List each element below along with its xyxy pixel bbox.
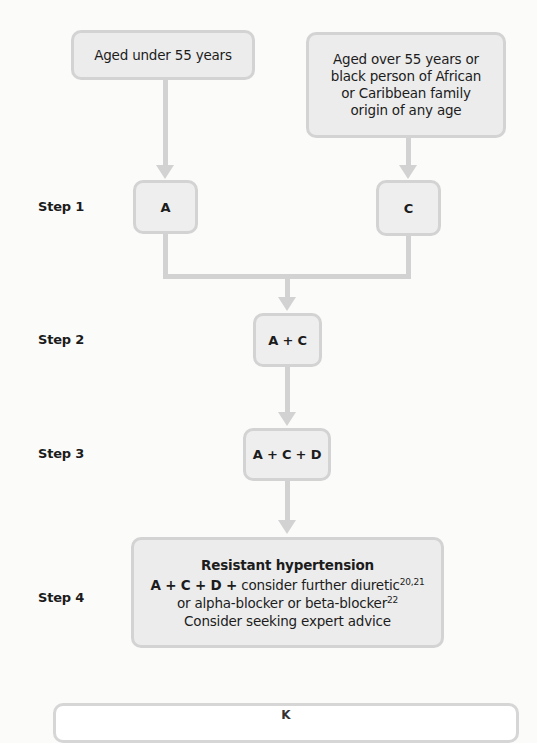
connector-a-down [163, 234, 168, 278]
step4-title: Resistant hypertension [201, 556, 374, 574]
step-4-label: Step 4 [38, 590, 84, 605]
arrowhead-to-c [399, 165, 417, 179]
step4-line-1-ref: 20,21 [400, 577, 425, 587]
connector-step2-to-step3 [285, 367, 290, 413]
key-box: K [53, 703, 519, 743]
connector-step3-to-step4 [285, 481, 290, 521]
connector-over55-to-c [406, 138, 411, 166]
step4-line-1-text: consider further diuretic [237, 577, 400, 593]
box-over55-line-3: or Caribbean family [341, 85, 471, 102]
step4-line-2-ref: 22 [387, 595, 398, 605]
step-3-label: Step 3 [38, 446, 84, 461]
box-step1-c-text: C [404, 200, 413, 217]
arrowhead-to-a [156, 165, 174, 179]
step4-line-3: Consider seeking expert advice [184, 612, 391, 630]
box-step2-text: A + C [268, 332, 307, 349]
box-step3-a-plus-c-plus-d: A + C + D [243, 428, 331, 481]
arrowhead-to-step2 [278, 297, 296, 311]
box-step4-resistant-hypertension: Resistant hypertension A + C + D + consi… [131, 537, 444, 648]
box-aged-under-55-text: Aged under 55 years [94, 47, 232, 64]
connector-under55-to-a [163, 80, 168, 166]
box-step1-a: A [133, 180, 198, 234]
step4-line-2: or alpha-blocker or beta-blocker22 [177, 594, 398, 612]
box-aged-under-55: Aged under 55 years [71, 30, 255, 80]
box-over55-line-4: origin of any age [351, 102, 462, 119]
step4-line-1-bold: A + C + D + [150, 577, 237, 593]
box-step3-text: A + C + D [253, 446, 321, 463]
box-step1-c: C [376, 180, 441, 236]
box-aged-over-55: Aged over 55 years or black person of Af… [306, 32, 506, 138]
box-over55-line-1: Aged over 55 years or [333, 51, 479, 68]
box-over55-line-2: black person of African [331, 68, 481, 85]
arrowhead-to-step4 [278, 520, 296, 534]
connector-merge-to-step2 [285, 278, 290, 298]
connector-c-down [406, 236, 411, 278]
key-box-label: K [56, 708, 516, 722]
box-step1-a-text: A [161, 199, 171, 216]
step4-line-1: A + C + D + consider further diuretic20,… [150, 576, 424, 594]
arrowhead-to-step3 [278, 412, 296, 426]
step4-line-2-text: or alpha-blocker or beta-blocker [177, 595, 387, 611]
step-2-label: Step 2 [38, 332, 84, 347]
step-1-label: Step 1 [38, 199, 84, 214]
box-step2-a-plus-c: A + C [253, 313, 322, 367]
